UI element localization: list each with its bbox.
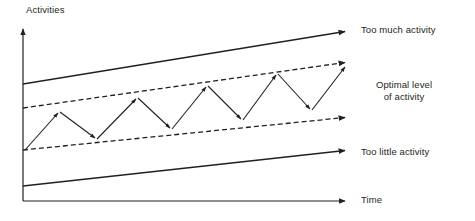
too-little-activity-label: Too little activity — [361, 146, 429, 158]
x-axis-label: Time — [361, 194, 382, 206]
too-much-activity-label: Too much activity — [361, 24, 436, 36]
optimal-level-label: Optimal level of activity — [361, 79, 447, 103]
zigzag-segment-up-4 — [243, 75, 276, 120]
activity-zigzag-path — [25, 67, 345, 150]
zigzag-segment-up-2 — [97, 99, 136, 139]
diagram-canvas: Activities Too much activity Optimal lev… — [0, 0, 475, 221]
zigzag-segment-down-1 — [60, 112, 95, 138]
too-little-activity-line — [23, 151, 345, 187]
zigzag-segment-down-2 — [138, 98, 170, 128]
zigzag-segment-up-5 — [312, 67, 345, 110]
optimal-lower-bound-line — [23, 118, 345, 151]
optimal-level-label-line1: Optimal level — [376, 79, 432, 90]
zigzag-segment-up-3 — [172, 87, 206, 129]
too-much-activity-line — [23, 32, 345, 85]
zigzag-segment-up-1 — [25, 113, 58, 150]
optimal-upper-bound-line — [23, 63, 345, 109]
zigzag-segment-down-3 — [208, 86, 241, 119]
zigzag-segment-down-4 — [278, 74, 310, 109]
optimal-level-label-line2: of activity — [384, 91, 425, 102]
y-axis-label: Activities — [26, 4, 64, 16]
